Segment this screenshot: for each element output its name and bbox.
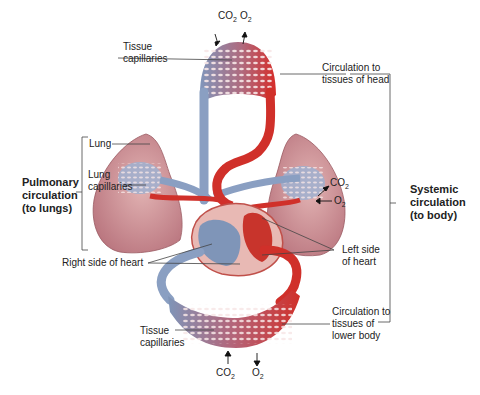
circulatory-diagram: CO2 O2 Tissue capillaries Circulation to… xyxy=(0,0,480,395)
head-circulation-loop xyxy=(200,42,276,200)
lung-capillaries-label: Lung capillaries xyxy=(88,169,132,193)
left-lung xyxy=(93,134,182,253)
bottom-tissue-capillaries-label: Tissue capillaries xyxy=(140,325,184,349)
bottom-co2-label: CO2 xyxy=(216,367,235,380)
lung-co2-label: CO2 xyxy=(330,177,349,190)
top-o2-label: O2 xyxy=(240,10,252,23)
bottom-o2-label: O2 xyxy=(252,367,264,380)
right-side-of-heart-label: Right side of heart xyxy=(62,257,143,269)
lung-label: Lung xyxy=(89,138,111,150)
left-side-of-heart-label: Left side of heart xyxy=(342,244,380,268)
lower-body-circulation-label: Circulation to tissues of lower body xyxy=(332,306,390,342)
lung-o2-label: O2 xyxy=(334,195,346,208)
top-co2-label: CO2 xyxy=(218,10,237,23)
systemic-circulation-label: Systemic circulation (to body) xyxy=(410,183,466,222)
heart xyxy=(192,204,283,276)
top-tissue-capillaries-label: Tissue capillaries xyxy=(123,41,167,65)
head-circulation-label: Circulation to tissues of head xyxy=(322,62,389,86)
pulmonary-circulation-label: Pulmonary circulation (to lungs) xyxy=(22,176,79,215)
